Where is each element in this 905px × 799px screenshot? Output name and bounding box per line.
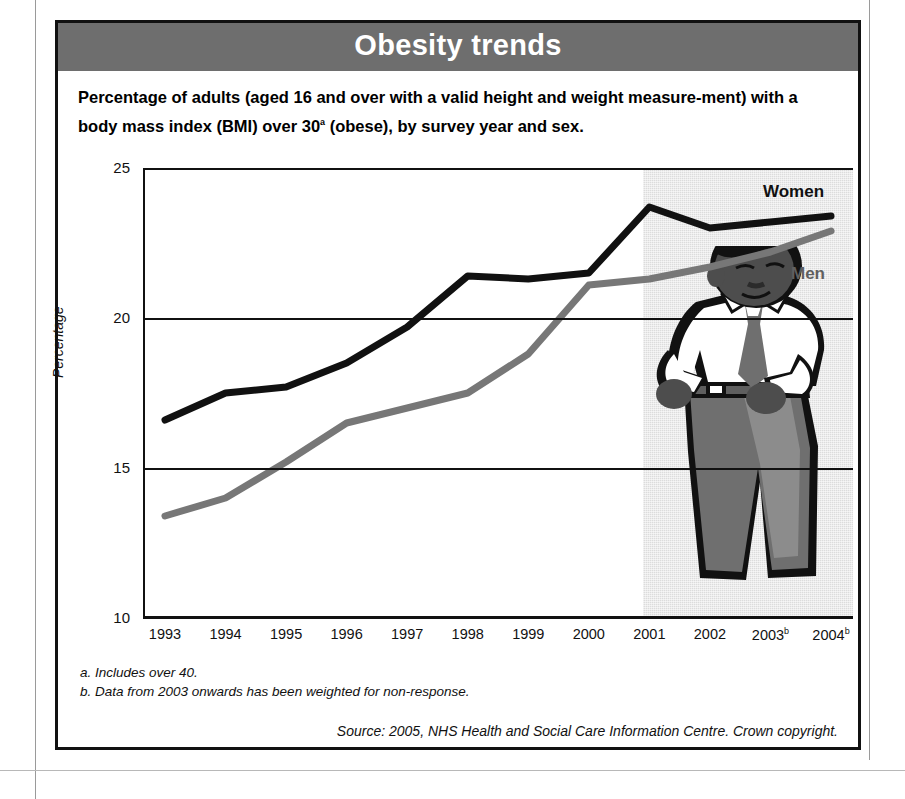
plot-area: Women Men 199319941995199619971998199920… xyxy=(143,168,853,618)
figure-container: Obesity trends Percentage of adults (age… xyxy=(55,20,861,750)
x-axis-tick-2003: 2003b xyxy=(752,626,789,643)
footnote-item: b. Data from 2003 onwards has been weigh… xyxy=(80,682,840,701)
page-margin-rule-bottom xyxy=(0,770,905,771)
page-margin-rule-left xyxy=(35,0,36,799)
source-line: Source: 2005, NHS Health and Social Care… xyxy=(80,723,838,739)
x-axis-tick-1995: 1995 xyxy=(270,626,302,642)
y-axis-tick-labels: 10152025 xyxy=(86,168,130,618)
series-line-men xyxy=(165,231,831,516)
series-line-women xyxy=(165,207,831,420)
x-axis-tick-2002: 2002 xyxy=(694,626,726,642)
x-axis-tick-1997: 1997 xyxy=(391,626,423,642)
y-axis-tick-15: 15 xyxy=(90,459,130,476)
y-axis-title: Percentage xyxy=(50,306,66,378)
x-axis-tick-1998: 1998 xyxy=(452,626,484,642)
footnote-item: a. Includes over 40. xyxy=(80,663,840,682)
gridline-15 xyxy=(143,468,853,470)
series-label-men: Men xyxy=(791,264,825,284)
x-axis-tick-2004: 2004b xyxy=(812,626,849,643)
x-axis-tick-1993: 1993 xyxy=(149,626,181,642)
x-axis-tick-1996: 1996 xyxy=(330,626,362,642)
x-axis-tick-1999: 1999 xyxy=(512,626,544,642)
y-axis-tick-10: 10 xyxy=(90,609,130,626)
page-margin-rule-right xyxy=(869,0,870,760)
series-label-women: Women xyxy=(763,182,824,202)
series-lines xyxy=(143,168,853,618)
footnote-list: a. Includes over 40.b. Data from 2003 on… xyxy=(80,663,840,701)
x-axis-tick-2000: 2000 xyxy=(573,626,605,642)
chart: 10152025 Percentage xyxy=(58,23,858,753)
y-axis-tick-20: 20 xyxy=(90,309,130,326)
x-axis-tick-2001: 2001 xyxy=(633,626,665,642)
x-axis-tick-1994: 1994 xyxy=(209,626,241,642)
y-axis-tick-25: 25 xyxy=(90,159,130,176)
gridline-20 xyxy=(143,318,853,320)
